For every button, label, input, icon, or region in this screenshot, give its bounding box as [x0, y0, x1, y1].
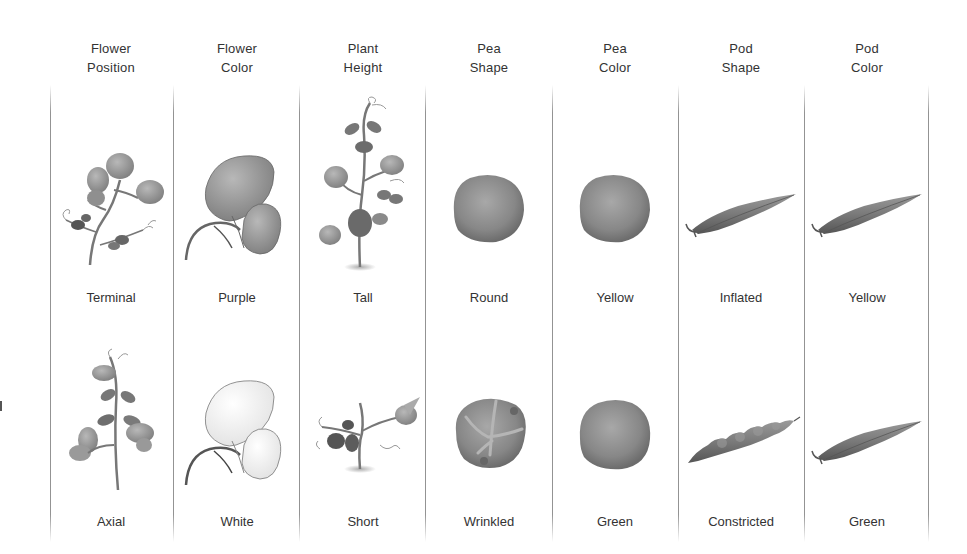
column-header: Pea Color: [552, 39, 678, 77]
column-pea-color: Pea Color Yellow Green: [552, 0, 678, 554]
trait-label: Tall: [300, 290, 426, 305]
column-pea-shape: Pea Shape Round Wrinkled: [426, 0, 552, 554]
header-line: Pod: [804, 39, 930, 58]
white-flower-illustration: [174, 345, 300, 495]
trait-label: Axial: [48, 514, 174, 529]
trait-label: Green: [552, 514, 678, 529]
trait-label: White: [174, 514, 300, 529]
terminal-flower-plant-illustration: [48, 120, 174, 270]
green-pod-illustration: [804, 345, 930, 495]
column-header: Pea Shape: [426, 39, 552, 77]
green-pea-illustration: [552, 345, 678, 495]
header-line: Flower: [174, 39, 300, 58]
trait-label: Yellow: [552, 290, 678, 305]
axial-flower-plant-illustration: [48, 345, 174, 495]
trait-label: Purple: [174, 290, 300, 305]
column-header: Flower Color: [174, 39, 300, 77]
header-line: Color: [174, 58, 300, 77]
purple-flower-illustration: [174, 120, 300, 270]
header-line: Pea: [552, 39, 678, 58]
header-line: Shape: [678, 58, 804, 77]
column-header: Pod Color: [804, 39, 930, 77]
column-flower-color: Flower Color Purple White: [174, 0, 300, 554]
trait-label: Wrinkled: [426, 514, 552, 529]
wrinkled-pea-illustration: [426, 345, 552, 495]
header-line: Pod: [678, 39, 804, 58]
column-pod-color: Pod Color Yellow Green: [804, 0, 930, 554]
yellow-pod-illustration: [804, 120, 930, 270]
trait-label: Constricted: [678, 514, 804, 529]
trait-label: Terminal: [48, 290, 174, 305]
trait-label: Green: [804, 514, 930, 529]
trait-label: Round: [426, 290, 552, 305]
header-line: Color: [552, 58, 678, 77]
header-line: Plant: [300, 39, 426, 58]
trait-label: Yellow: [804, 290, 930, 305]
header-line: Color: [804, 58, 930, 77]
column-pod-shape: Pod Shape Inflated Constricted: [678, 0, 804, 554]
yellow-pea-illustration: [552, 120, 678, 270]
tall-plant-illustration: [300, 95, 426, 275]
header-line: Height: [300, 58, 426, 77]
inflated-pod-illustration: [678, 120, 804, 270]
short-plant-illustration: [300, 345, 426, 495]
header-line: Flower: [48, 39, 174, 58]
trait-label: Short: [300, 514, 426, 529]
header-line: Position: [48, 58, 174, 77]
edge-mark: [0, 401, 2, 411]
header-line: Shape: [426, 58, 552, 77]
trait-label: Inflated: [678, 290, 804, 305]
column-header: Plant Height: [300, 39, 426, 77]
column-flower-position: Flower Position Terminal: [48, 0, 174, 554]
constricted-pod-illustration: [678, 345, 804, 495]
column-plant-height: Plant Height Tall: [300, 0, 426, 554]
round-pea-illustration: [426, 120, 552, 270]
column-header: Flower Position: [48, 39, 174, 77]
header-line: Pea: [426, 39, 552, 58]
column-header: Pod Shape: [678, 39, 804, 77]
